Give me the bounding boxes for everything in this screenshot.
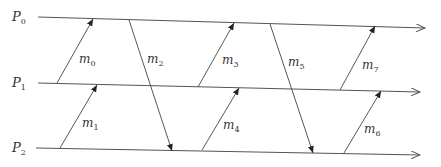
timeline-p2 <box>36 148 420 155</box>
process-label-p2: P2 <box>11 140 26 157</box>
message-diagram: P0P1P2m0m1m2m3m4m5m6m7 <box>0 0 441 167</box>
message-label-m0: m0 <box>79 52 95 68</box>
message-label-m2: m2 <box>147 52 163 68</box>
message-label-m1: m1 <box>82 116 98 132</box>
message-arrow-m6 <box>344 91 381 153</box>
message-label-m5: m5 <box>288 55 304 71</box>
timeline-p0 <box>38 17 425 28</box>
process-label-p0: P0 <box>11 9 26 26</box>
message-arrow-m0 <box>57 19 93 83</box>
process-label-p1: P1 <box>11 75 26 92</box>
message-label-m7: m7 <box>362 58 378 74</box>
message-label-m3: m3 <box>222 53 238 69</box>
labels: P0P1P2m0m1m2m3m4m5m6m7 <box>11 9 380 157</box>
message-arrows <box>57 19 381 153</box>
message-label-m6: m6 <box>364 122 380 138</box>
message-label-m4: m4 <box>223 118 239 134</box>
